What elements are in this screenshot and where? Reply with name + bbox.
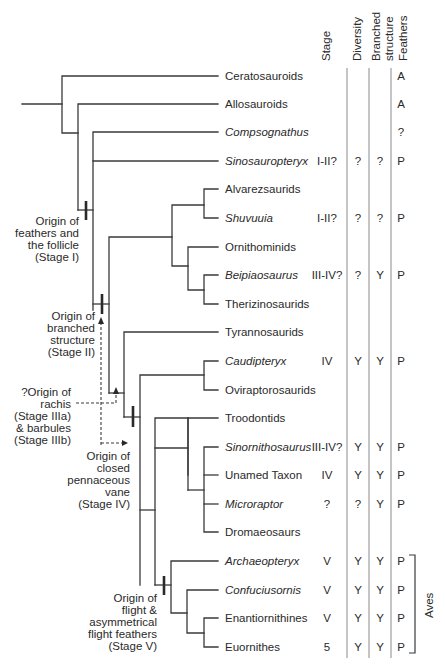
taxon-label: Ceratosauroids bbox=[225, 69, 303, 83]
branched-cell: Y bbox=[376, 354, 384, 368]
diversity-cell: ? bbox=[355, 154, 361, 168]
feathers-cell: P bbox=[397, 583, 405, 597]
taxon-label: Troodontids bbox=[225, 411, 285, 425]
taxon-label: Caudipteryx bbox=[225, 354, 286, 368]
stage-cell: 5 bbox=[324, 640, 330, 654]
branched-cell: ? bbox=[377, 211, 383, 225]
annotation-stage4: Origin ofclosedpennaceousvane(Stage IV) bbox=[67, 450, 130, 510]
taxon-label: Sinornithosaurus bbox=[225, 440, 311, 454]
branched-cell: Y bbox=[376, 268, 384, 282]
diversity-cell: Y bbox=[354, 468, 362, 482]
taxon-label: Compsognathus bbox=[225, 125, 309, 139]
taxon-label: Microraptor bbox=[225, 497, 283, 511]
annotation-stage5: Origin offlight &asymmetricalflight feat… bbox=[88, 592, 157, 652]
taxon-label: Euornithes bbox=[225, 640, 280, 654]
column-header-branched-structure: Branchedstructure bbox=[370, 12, 396, 61]
annotation-stage3: ?Origin ofrachis(Stage IIIa)& barbules(S… bbox=[14, 386, 71, 446]
branched-cell: Y bbox=[376, 554, 384, 568]
feathers-cell: P bbox=[397, 154, 405, 168]
taxon-label: Allosauroids bbox=[225, 97, 288, 111]
taxon-label: Therizinosaurids bbox=[225, 297, 309, 311]
branched-cell: Y bbox=[376, 583, 384, 597]
taxon-label: Unamed Taxon bbox=[225, 468, 302, 482]
branched-cell: Y bbox=[376, 497, 384, 511]
taxon-label: Beipiaosaurus bbox=[225, 268, 298, 282]
feathers-cell: A bbox=[397, 97, 405, 111]
taxon-label: Dromaeosaurs bbox=[225, 525, 300, 539]
feathers-cell: P bbox=[397, 640, 405, 654]
branched-cell: ? bbox=[377, 154, 383, 168]
stage-cell: IV bbox=[322, 468, 333, 482]
column-header-diversity: Diversity bbox=[351, 17, 364, 61]
diversity-cell: ? bbox=[355, 268, 361, 282]
stage-cell: ? bbox=[324, 497, 330, 511]
diversity-cell: Y bbox=[354, 554, 362, 568]
column-header-feathers: Feathers bbox=[397, 16, 410, 61]
feathers-cell: ? bbox=[398, 125, 404, 139]
feathers-cell: P bbox=[397, 268, 405, 282]
taxon-label: Archaeopteryx bbox=[225, 554, 299, 568]
feathers-cell: A bbox=[397, 69, 405, 83]
column-header-stage: Stage bbox=[320, 31, 333, 61]
diversity-cell: Y bbox=[354, 611, 362, 625]
stage-cell: V bbox=[323, 554, 331, 568]
annotation-stage1: Origin offeathers andthe follicle(Stage … bbox=[15, 215, 79, 263]
stage-cell: I-II? bbox=[317, 211, 337, 225]
taxon-label: Sinosauropteryx bbox=[225, 154, 308, 168]
taxon-label: Shuvuuia bbox=[225, 211, 273, 225]
taxon-label: Alvarezsaurids bbox=[225, 182, 300, 196]
stage-cell: III-IV? bbox=[312, 440, 343, 454]
feathers-cell: P bbox=[397, 554, 405, 568]
taxon-label: Enantiornithines bbox=[225, 611, 307, 625]
stage-cell: IV bbox=[322, 354, 333, 368]
stage-cell: III-IV? bbox=[312, 268, 343, 282]
annotation-stage2: Origin ofbranchedstructure(Stage II) bbox=[47, 310, 95, 358]
taxon-label: Oviraptorosaurids bbox=[225, 383, 316, 397]
feathers-cell: P bbox=[397, 468, 405, 482]
diversity-cell: Y bbox=[354, 440, 362, 454]
feathers-cell: P bbox=[397, 440, 405, 454]
stage-cell: V bbox=[323, 611, 331, 625]
taxon-label: Confuciusornis bbox=[225, 583, 301, 597]
branched-cell: Y bbox=[376, 640, 384, 654]
branched-cell: Y bbox=[376, 440, 384, 454]
branched-cell: Y bbox=[376, 611, 384, 625]
diversity-cell: Y bbox=[354, 583, 362, 597]
feathers-cell: P bbox=[397, 354, 405, 368]
stage-cell: I-II? bbox=[317, 154, 337, 168]
feathers-cell: P bbox=[397, 497, 405, 511]
feathers-cell: P bbox=[397, 611, 405, 625]
stage-cell: V bbox=[323, 583, 331, 597]
branched-cell: Y bbox=[376, 468, 384, 482]
diversity-cell: ? bbox=[355, 497, 361, 511]
taxon-label: Tyrannosaurids bbox=[225, 325, 304, 339]
taxon-label: Ornithominids bbox=[225, 240, 296, 254]
aves-label: Aves bbox=[423, 593, 435, 618]
diversity-cell: ? bbox=[355, 211, 361, 225]
diversity-cell: Y bbox=[354, 354, 362, 368]
feathers-cell: P bbox=[397, 211, 405, 225]
diversity-cell: Y bbox=[354, 640, 362, 654]
